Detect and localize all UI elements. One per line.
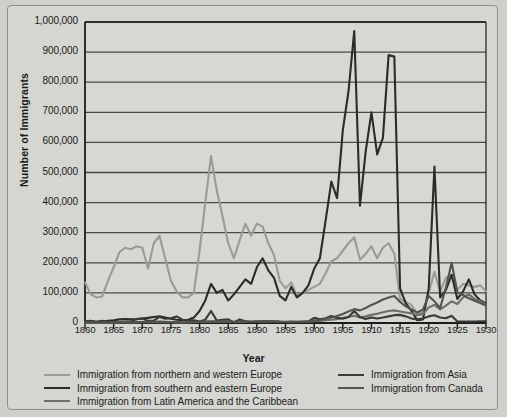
y-axis-tick-label: 600,000 (16, 135, 78, 146)
y-axis-title: Number of Immigrants (18, 50, 30, 210)
y-axis-tick-label: 400,000 (16, 196, 78, 207)
y-axis-tick-label: 700,000 (16, 105, 78, 116)
legend-item-label: Immigration from northern and western Eu… (77, 369, 282, 380)
y-axis-tick-label: 200,000 (16, 256, 78, 267)
legend-color-swatch (44, 400, 70, 402)
legend-column-right: Immigration from AsiaImmigration from Ca… (338, 368, 483, 395)
x-axis-title: Year (8, 352, 499, 364)
legend-item: Immigration from Latin America and the C… (44, 395, 298, 408)
legend-color-swatch (338, 374, 364, 376)
chart-legend: Immigration from northern and western Eu… (8, 368, 499, 410)
chart-figure: Number of Immigrants Year 0100,000200,00… (7, 5, 498, 410)
y-axis-tick-label: 900,000 (16, 45, 78, 56)
y-axis-tick-label: 300,000 (16, 226, 78, 237)
legend-item: Immigration from Canada (338, 381, 483, 394)
legend-item-label: Immigration from Latin America and the C… (77, 396, 298, 407)
legend-color-swatch (44, 387, 70, 389)
legend-item-label: Immigration from southern and eastern Eu… (77, 383, 282, 394)
plot-area: Number of Immigrants Year 0100,000200,00… (8, 6, 499, 351)
y-axis-tick-label: 100,000 (16, 286, 78, 297)
legend-color-swatch (338, 387, 364, 389)
legend-item: Immigration from southern and eastern Eu… (44, 381, 298, 394)
legend-item: Immigration from northern and western Eu… (44, 368, 298, 381)
legend-item-label: Immigration from Asia (371, 369, 467, 380)
y-axis-tick-label: 500,000 (16, 166, 78, 177)
x-axis-tick-label: 1930 (469, 324, 503, 335)
y-axis-tick-label: 1,000,000 (16, 15, 78, 26)
legend-color-swatch (44, 374, 70, 376)
legend-item: Immigration from Asia (338, 368, 483, 381)
y-axis-tick-label: 800,000 (16, 75, 78, 86)
line-chart-svg (8, 6, 499, 351)
legend-item-label: Immigration from Canada (371, 383, 483, 394)
legend-column-left: Immigration from northern and western Eu… (44, 368, 298, 408)
